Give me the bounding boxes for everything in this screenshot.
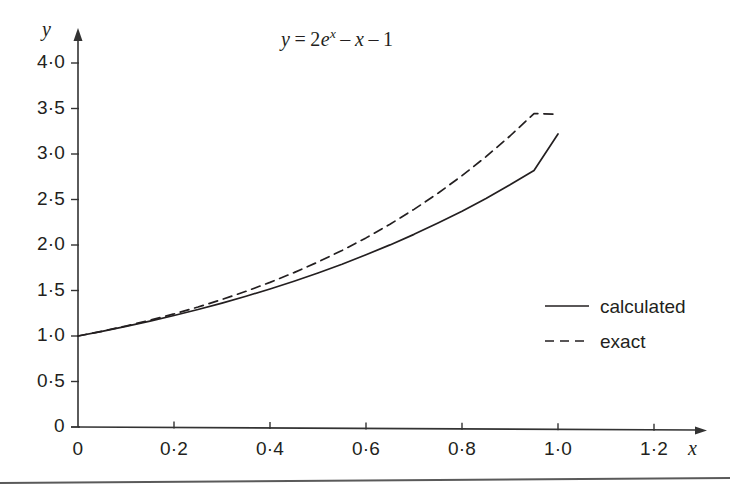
axes-group (74, 28, 708, 435)
chart-figure: y = 2ex – x – 1 y x 00·20·40·60·81·01·2 … (0, 0, 730, 500)
x-axis-label: x (688, 437, 697, 460)
y-tick-label-4: 2·0 (37, 233, 65, 255)
y-tick-label-1: 0·5 (37, 370, 65, 392)
x-tick-label-3: 0·6 (352, 438, 380, 460)
curves-group (78, 114, 558, 336)
y-tick-label-0: 0 (54, 415, 65, 437)
x-tick-label-0: 0 (73, 438, 84, 460)
legend-item-calculated: calculated (600, 296, 686, 318)
y-tick-label-5: 2·5 (37, 188, 65, 210)
x-tick-label-4: 0·8 (448, 438, 476, 460)
bottom-divider (0, 478, 730, 483)
x-tick-label-5: 1·0 (544, 438, 572, 460)
plot-canvas (0, 0, 730, 500)
y-tick-label-3: 1·5 (37, 279, 65, 301)
legend-item-exact: exact (600, 331, 645, 353)
bottom-rule (0, 478, 730, 483)
y-tick-label-6: 3·0 (37, 142, 65, 164)
chart-title: y = 2ex – x – 1 (281, 28, 393, 51)
y-tick-label-8: 4·0 (37, 51, 65, 73)
legend-line-samples (545, 306, 589, 341)
series-curve-calculated (78, 134, 558, 336)
x-tick-label-2: 0·4 (256, 438, 284, 460)
x-tick-label-6: 1·2 (640, 438, 668, 460)
y-axis-arrowhead (74, 28, 83, 41)
series-curve-exact (78, 114, 558, 336)
y-tick-label-2: 1·0 (37, 324, 65, 346)
y-axis-label: y (42, 18, 51, 41)
ticks-group (71, 63, 654, 431)
x-axis-arrowhead (695, 427, 707, 435)
y-tick-label-7: 3·5 (37, 97, 65, 119)
x-axis-line (78, 427, 697, 430)
x-tick-label-1: 0·2 (160, 438, 188, 460)
